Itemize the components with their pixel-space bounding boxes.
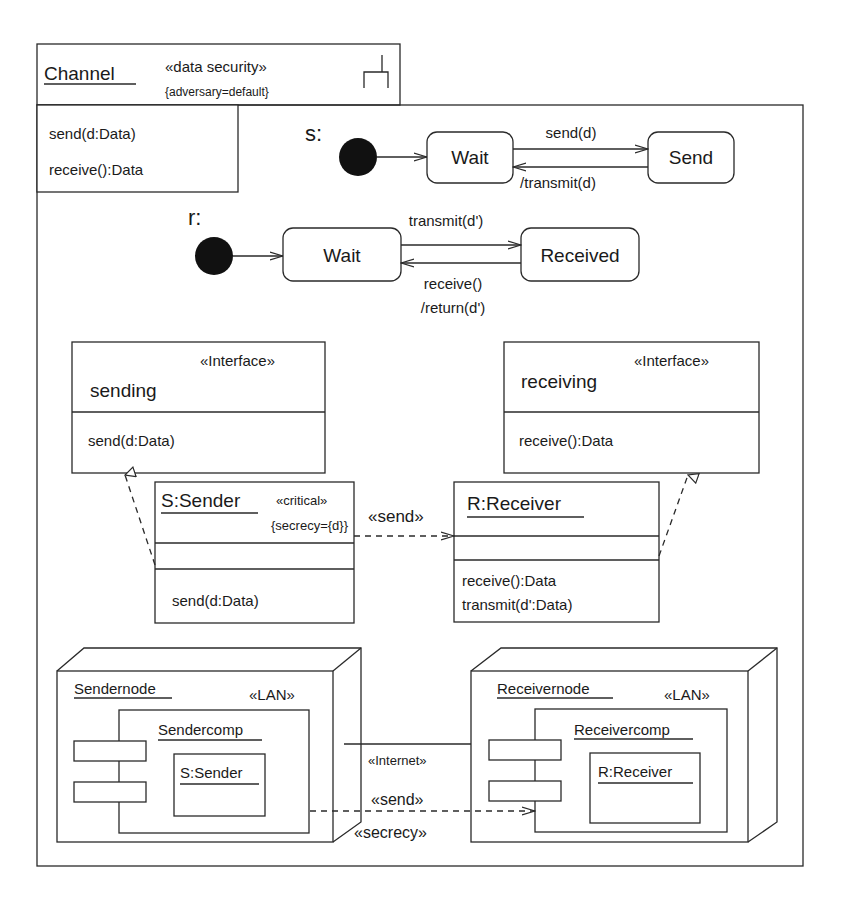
- package-stereotype: «data security»: [165, 58, 267, 75]
- interface-sending[interactable]: «Interface» sending send(d:Data): [72, 342, 325, 473]
- interface-name: receiving: [521, 371, 597, 392]
- interface-stereotype: «Interface»: [634, 352, 709, 369]
- interface-receiving[interactable]: «Interface» receiving receive():Data: [504, 342, 759, 473]
- interface-operation: send(d:Data): [88, 432, 175, 449]
- dependency-label: «send»: [371, 791, 424, 808]
- node-sendernode[interactable]: Sendernode «LAN» Sendercomp S:Sender: [57, 648, 361, 842]
- state-machine-sender: s: Wait Send send(d) /transmit(d): [305, 121, 734, 191]
- state-machine-receiver: r: Wait Received transmit(d') receive() …: [188, 205, 639, 316]
- package-operations-box: [37, 105, 238, 192]
- component-port-icon: [489, 740, 561, 760]
- state-label: Send: [669, 147, 713, 168]
- transition-label: send(d): [546, 124, 597, 141]
- component-port-icon: [489, 781, 561, 801]
- dependency-stereotype: «secrecy»: [354, 824, 427, 841]
- initial-state-icon: [339, 138, 377, 176]
- realization-receiving: [659, 475, 688, 556]
- object-name: R:Receiver: [598, 763, 672, 780]
- state-machine-label: r:: [188, 205, 201, 230]
- uml-diagram: Channel «data security» {adversary=defau…: [0, 0, 841, 909]
- class-operation: send(d:Data): [172, 592, 259, 609]
- realization-sending: [125, 475, 155, 565]
- object-name: S:Sender: [180, 764, 243, 781]
- link-label: «Internet»: [368, 753, 427, 768]
- initial-state-icon: [195, 237, 233, 275]
- component-port-icon: [74, 782, 146, 802]
- class-operation: transmit(d':Data): [462, 596, 572, 613]
- class-sender[interactable]: S:Sender «critical» {secrecy={d}} send(d…: [155, 482, 354, 623]
- package-operation: receive():Data: [49, 161, 144, 178]
- class-tag: {secrecy={d}}: [271, 518, 349, 533]
- component-name: Sendercomp: [158, 721, 243, 738]
- state-machine-label: s:: [305, 121, 322, 146]
- state-label: Wait: [451, 147, 489, 168]
- package-tag: {adversary=default}: [165, 85, 269, 99]
- interface-box: [72, 342, 325, 473]
- interface-name: sending: [90, 380, 157, 401]
- class-stereotype: «critical»: [276, 493, 327, 508]
- interface-stereotype: «Interface»: [200, 352, 275, 369]
- interface-box: [504, 342, 759, 473]
- node-3d-edge: [333, 648, 361, 671]
- class-name: R:Receiver: [467, 493, 562, 514]
- state-label: Received: [540, 245, 619, 266]
- component-port-icon: [74, 741, 146, 761]
- class-receiver[interactable]: R:Receiver receive():Data transmit(d':Da…: [454, 482, 659, 622]
- component-name: Receivercomp: [574, 721, 670, 738]
- transition-label: transmit(d'): [409, 212, 484, 229]
- package-operation: send(d:Data): [49, 125, 136, 142]
- class-name: S:Sender: [161, 490, 241, 511]
- state-label: Wait: [323, 245, 361, 266]
- interface-operation: receive():Data: [519, 432, 614, 449]
- node-stereotype: «LAN»: [664, 686, 710, 703]
- transition-label: /return(d'): [421, 299, 486, 316]
- node-name: Receivernode: [497, 680, 590, 697]
- class-operation: receive():Data: [462, 572, 557, 589]
- transition-label: receive(): [424, 275, 482, 292]
- node-name: Sendernode: [74, 680, 156, 697]
- node-stereotype: «LAN»: [249, 686, 295, 703]
- transition-label: /transmit(d): [520, 174, 596, 191]
- node-receivernode[interactable]: Receivernode «LAN» Receivercomp R:Receiv…: [471, 648, 777, 842]
- package-name: Channel: [44, 63, 115, 84]
- dependency-label: «send»: [368, 507, 424, 526]
- node-3d-edge: [748, 648, 777, 671]
